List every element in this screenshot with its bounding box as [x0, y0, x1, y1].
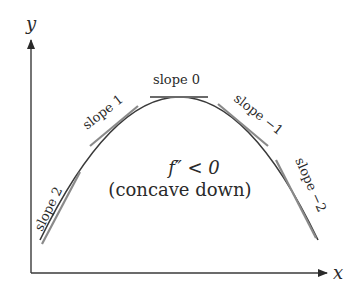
label-slope-0: slope 0 [153, 72, 200, 87]
concave-down-label: (concave down) [108, 179, 251, 200]
x-axis-label: x [333, 262, 343, 283]
label-slope-1: slope 1 [80, 92, 126, 133]
label-slope-neg2: slope −2 [292, 155, 329, 214]
concavity-diagram: y x slope 2 slope 1 slope 0 slope −1 slo… [0, 0, 360, 296]
second-derivative-condition: f″ < 0 [166, 157, 219, 178]
y-axis-label: y [25, 13, 37, 34]
label-slope-neg1: slope −1 [231, 91, 286, 139]
concavity-annotation: f″ < 0 (concave down) [108, 157, 251, 200]
axes: y x [25, 13, 343, 283]
